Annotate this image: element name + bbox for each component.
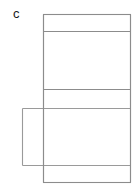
figure-panel-c: c	[0, 0, 139, 193]
box-net-diagram	[0, 0, 139, 193]
net-column-fill	[43, 14, 131, 183]
